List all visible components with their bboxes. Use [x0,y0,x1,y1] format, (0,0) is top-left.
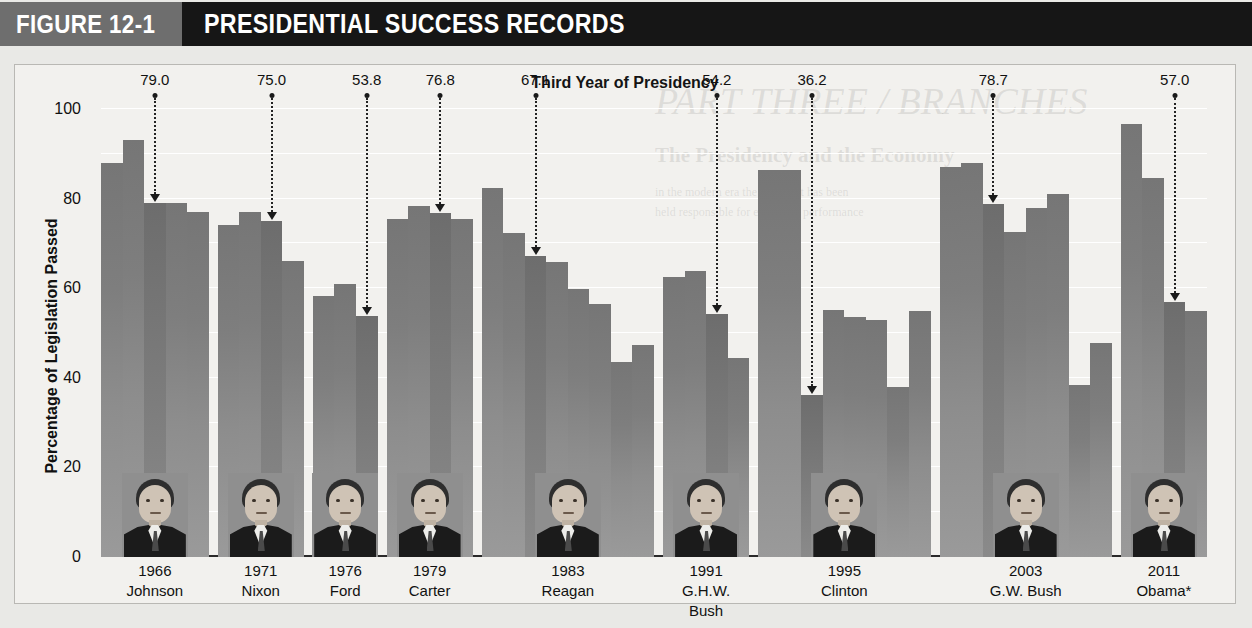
x-group-president: G.W. Bush [940,581,1112,601]
portrait-face [312,473,378,557]
president-portrait [535,473,601,557]
bar-group-reagan[interactable] [482,109,654,557]
president-portrait [673,473,739,557]
x-group-year: 1995 [758,561,930,581]
annotation-stem [154,98,156,194]
bar-group-nixon[interactable] [218,109,304,557]
bar[interactable] [1090,343,1112,557]
y-tick-label: 40 [35,369,81,387]
annotation-value: 36.2 [797,71,826,88]
x-group-year: 1976 [313,561,378,581]
x-group-year: 1983 [482,561,654,581]
x-group-president: Clinton [758,581,930,601]
annotation-arrowhead [712,305,722,313]
bar[interactable] [482,188,504,557]
x-group-president: Obama* [1121,581,1207,601]
x-group-label: 1976Ford [313,561,378,601]
annotation-value: 79.0 [140,71,169,88]
y-tick-label: 0 [35,548,81,566]
annotation-arrowhead [531,247,541,255]
x-group-year: 2011 [1121,561,1207,581]
annotation-arrowhead [1170,293,1180,301]
y-axis-ticks: 020406080100 [29,65,81,605]
bar[interactable] [1069,385,1091,557]
bar[interactable] [611,362,633,557]
bar[interactable] [503,233,525,557]
x-group-president: Ford [313,581,378,601]
x-group-year: 2003 [940,561,1112,581]
annotation-stem [811,98,813,386]
x-group-label: 1979Carter [387,561,473,601]
chart-title: Third Year of Presidency [15,74,1235,92]
president-portrait [397,473,463,557]
annotation-value: 78.7 [979,71,1008,88]
x-group-label: 1966Johnson [101,561,209,601]
y-tick-label: 20 [35,458,81,476]
bar-group-obama[interactable] [1121,109,1207,557]
figure-number-label: FIGURE 12-1 [16,9,155,40]
bar[interactable] [187,212,209,557]
portrait-face [122,473,188,557]
annotation-arrowhead [150,194,160,202]
annotation-arrowhead [435,204,445,212]
annotation-value: 53.8 [352,71,381,88]
president-portrait [1131,473,1197,557]
annotation-value: 67.1 [521,71,550,88]
bar-group-g-w-bush[interactable] [940,109,1112,557]
x-group-president: Carter [387,581,473,601]
bar[interactable] [758,170,780,557]
annotation-arrowhead [807,386,817,394]
y-tick-label: 100 [35,100,81,118]
y-tick-label: 60 [35,279,81,297]
annotation-value: 54.2 [702,71,731,88]
bar[interactable] [101,163,123,557]
annotation-stem [535,98,537,247]
annotation-stem [366,98,368,307]
annotation-stem [992,98,994,195]
figure-title-block: PRESIDENTIAL SUCCESS RECORDS [182,2,1252,46]
annotation-stem [439,98,441,204]
bar[interactable] [632,345,654,557]
portrait-face [1131,473,1197,557]
president-portrait [811,473,877,557]
x-group-president: Reagan [482,581,654,601]
x-group-label: 1983Reagan [482,561,654,601]
bar-group-g-h-w-bush[interactable] [663,109,749,557]
figure-number-block: FIGURE 12-1 [0,2,182,46]
bar[interactable] [961,163,983,557]
x-group-year: 1991 [663,561,749,581]
bar[interactable] [940,167,962,557]
president-portrait [993,473,1059,557]
x-group-label: 1971Nixon [218,561,304,601]
portrait-face [673,473,739,557]
annotation-value: 57.0 [1160,71,1189,88]
x-group-year: 1966 [101,561,209,581]
x-group-label: 2003G.W. Bush [940,561,1112,601]
bar-group-ford[interactable] [313,109,378,557]
figure-title-label: PRESIDENTIAL SUCCESS RECORDS [204,9,625,40]
plot-area: 79.075.053.876.867.154.236.278.757.0 [101,109,1207,557]
x-group-president: Johnson [101,581,209,601]
x-group-year: 1971 [218,561,304,581]
annotation-value: 76.8 [426,71,455,88]
bar-group-carter[interactable] [387,109,473,557]
bar[interactable] [780,170,802,557]
bar-group-clinton[interactable] [758,109,930,557]
annotation-stem [271,98,273,212]
portrait-face [228,473,294,557]
bar[interactable] [887,387,909,557]
annotation-arrowhead [362,307,372,315]
portrait-face [993,473,1059,557]
figure-page: FIGURE 12-1 PRESIDENTIAL SUCCESS RECORDS… [0,0,1252,628]
y-tick-label: 80 [35,190,81,208]
annotation-stem [716,98,718,305]
figure-header: FIGURE 12-1 PRESIDENTIAL SUCCESS RECORDS [0,2,1252,46]
bar[interactable] [909,311,931,557]
president-portrait [228,473,294,557]
annotation-arrowhead [267,212,277,220]
x-group-president: Nixon [218,581,304,601]
x-axis-labels: 1966Johnson1971Nixon1976Ford1979Carter19… [101,561,1207,605]
portrait-face [535,473,601,557]
x-group-president: G.H.W. Bush [663,581,749,621]
president-portrait [122,473,188,557]
